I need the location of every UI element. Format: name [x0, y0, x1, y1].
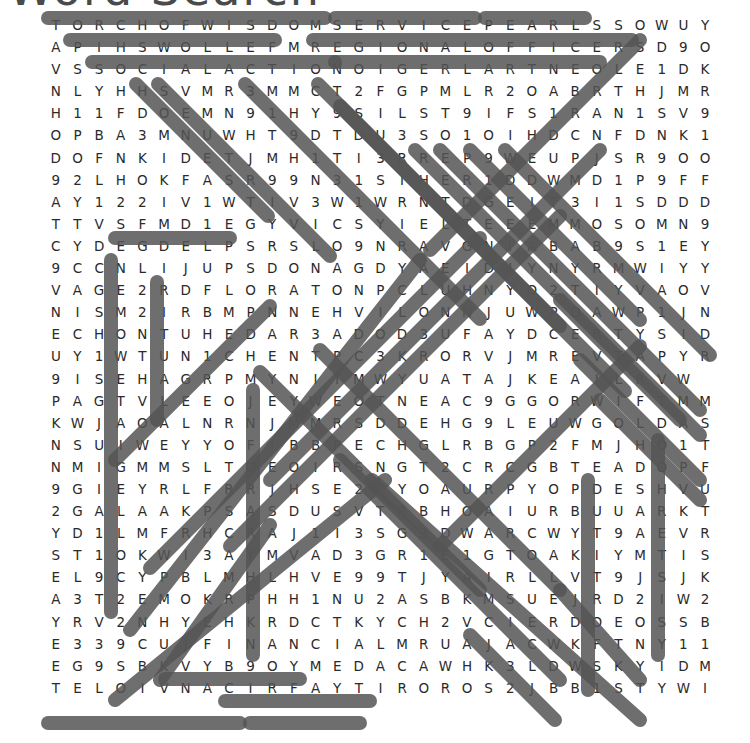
grid-cell[interactable]: A — [326, 257, 348, 279]
grid-cell[interactable]: F — [370, 80, 392, 102]
grid-cell[interactable]: 3 — [67, 588, 89, 610]
grid-cell[interactable]: A — [456, 633, 478, 655]
grid-cell[interactable]: A — [478, 368, 500, 390]
grid-cell[interactable]: K — [478, 655, 500, 677]
grid-cell[interactable]: L — [608, 368, 630, 390]
grid-cell[interactable]: 2 — [132, 191, 154, 213]
grid-cell[interactable]: S — [153, 80, 175, 102]
grid-cell[interactable]: L — [88, 677, 110, 699]
grid-cell[interactable]: Y — [45, 522, 67, 544]
grid-cell[interactable]: F — [175, 14, 197, 36]
grid-cell[interactable]: W — [586, 390, 608, 412]
grid-cell[interactable]: C — [348, 345, 370, 367]
grid-cell[interactable]: A — [348, 633, 370, 655]
grid-cell[interactable]: Y — [694, 257, 716, 279]
grid-cell[interactable]: P — [521, 434, 543, 456]
grid-cell[interactable]: S — [110, 655, 132, 677]
grid-cell[interactable]: R — [586, 588, 608, 610]
grid-cell[interactable]: G — [67, 478, 89, 500]
grid-cell[interactable]: A — [435, 368, 457, 390]
grid-cell[interactable]: I — [694, 677, 716, 699]
grid-cell[interactable]: 1 — [305, 147, 327, 169]
grid-cell[interactable]: S — [240, 235, 262, 257]
grid-cell[interactable]: B — [478, 434, 500, 456]
grid-cell[interactable]: W — [543, 522, 565, 544]
grid-cell[interactable]: D — [694, 191, 716, 213]
grid-cell[interactable]: N — [370, 235, 392, 257]
grid-cell[interactable]: E — [608, 611, 630, 633]
grid-cell[interactable]: S — [88, 301, 110, 323]
grid-cell[interactable]: G — [88, 279, 110, 301]
grid-cell[interactable]: G — [499, 434, 521, 456]
grid-cell[interactable]: D — [586, 478, 608, 500]
grid-cell[interactable]: S — [629, 191, 651, 213]
grid-cell[interactable]: T — [456, 368, 478, 390]
grid-cell[interactable]: Y — [608, 279, 630, 301]
grid-cell[interactable]: D — [153, 235, 175, 257]
grid-cell[interactable]: O — [45, 124, 67, 146]
grid-cell[interactable]: Y — [283, 655, 305, 677]
grid-cell[interactable]: T — [326, 80, 348, 102]
grid-cell[interactable]: W — [673, 677, 695, 699]
grid-cell[interactable]: W — [110, 345, 132, 367]
grid-cell[interactable]: Y — [67, 191, 89, 213]
grid-cell[interactable]: N — [45, 80, 67, 102]
grid-cell[interactable]: A — [564, 235, 586, 257]
grid-cell[interactable]: A — [110, 124, 132, 146]
grid-cell[interactable]: A — [218, 544, 240, 566]
grid-cell[interactable]: G — [586, 412, 608, 434]
grid-cell[interactable]: V — [88, 213, 110, 235]
grid-cell[interactable]: O — [586, 611, 608, 633]
grid-cell[interactable]: H — [110, 80, 132, 102]
grid-cell[interactable]: R — [391, 544, 413, 566]
grid-cell[interactable]: L — [499, 412, 521, 434]
grid-cell[interactable]: I — [499, 124, 521, 146]
grid-cell[interactable]: I — [370, 58, 392, 80]
grid-cell[interactable]: U — [456, 478, 478, 500]
grid-cell[interactable]: N — [45, 456, 67, 478]
grid-cell[interactable]: D — [629, 124, 651, 146]
grid-cell[interactable]: C — [456, 390, 478, 412]
grid-cell[interactable]: K — [456, 588, 478, 610]
grid-cell[interactable]: T — [348, 677, 370, 699]
grid-cell[interactable]: S — [629, 36, 651, 58]
grid-cell[interactable]: D — [694, 323, 716, 345]
grid-cell[interactable]: Y — [564, 522, 586, 544]
grid-cell[interactable]: 1 — [694, 633, 716, 655]
grid-cell[interactable]: V — [175, 655, 197, 677]
grid-cell[interactable]: J — [564, 588, 586, 610]
grid-cell[interactable]: T — [261, 58, 283, 80]
grid-cell[interactable]: B — [564, 80, 586, 102]
grid-cell[interactable]: D — [543, 655, 565, 677]
grid-cell[interactable]: E — [435, 147, 457, 169]
grid-cell[interactable]: U — [305, 500, 327, 522]
grid-cell[interactable]: E — [413, 213, 435, 235]
grid-cell[interactable]: P — [629, 301, 651, 323]
grid-cell[interactable]: B — [88, 124, 110, 146]
grid-cell[interactable]: S — [608, 147, 630, 169]
grid-cell[interactable]: Y — [196, 434, 218, 456]
grid-cell[interactable]: Y — [132, 478, 154, 500]
grid-cell[interactable]: O — [651, 456, 673, 478]
grid-cell[interactable]: R — [586, 257, 608, 279]
grid-cell[interactable]: E — [326, 390, 348, 412]
grid-cell[interactable]: A — [435, 36, 457, 58]
grid-cell[interactable]: R — [175, 301, 197, 323]
grid-cell[interactable]: R — [456, 434, 478, 456]
grid-cell[interactable]: K — [45, 412, 67, 434]
grid-cell[interactable]: O — [673, 147, 695, 169]
grid-cell[interactable]: I — [586, 368, 608, 390]
grid-cell[interactable]: T — [67, 544, 89, 566]
grid-cell[interactable]: M — [305, 14, 327, 36]
grid-cell[interactable]: Y — [521, 478, 543, 500]
grid-cell[interactable]: M — [196, 80, 218, 102]
grid-cell[interactable]: T — [45, 677, 67, 699]
grid-cell[interactable]: 3 — [564, 191, 586, 213]
grid-cell[interactable]: T — [45, 213, 67, 235]
grid-cell[interactable]: C — [499, 456, 521, 478]
grid-cell[interactable]: R — [478, 80, 500, 102]
grid-cell[interactable]: S — [132, 36, 154, 58]
grid-cell[interactable]: A — [629, 522, 651, 544]
grid-cell[interactable]: R — [629, 368, 651, 390]
grid-cell[interactable]: J — [651, 80, 673, 102]
